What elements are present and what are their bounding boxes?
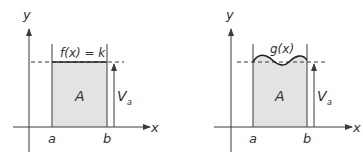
area-label: A (274, 88, 285, 104)
figure: y x f(x) = k A V a a b y x g(x) A V a a … (0, 0, 363, 159)
bound-a-label: a (48, 131, 56, 146)
height-label-subscript: a (127, 98, 132, 107)
diagram-variable-function: y x g(x) A V a a b (214, 7, 361, 152)
function-label: f(x) = k (60, 46, 106, 60)
y-axis-label: y (22, 7, 31, 22)
bound-b-label: b (103, 131, 111, 146)
y-axis-label: y (225, 7, 234, 22)
bound-a-label: a (249, 131, 257, 146)
height-label-subscript: a (327, 98, 332, 107)
area-label: A (74, 88, 85, 104)
x-axis-label: x (150, 120, 159, 135)
bound-b-label: b (303, 131, 311, 146)
function-label: g(x) (270, 42, 294, 56)
x-axis-label: x (352, 120, 361, 135)
diagram-constant-function: y x f(x) = k A V a a b (13, 7, 159, 152)
